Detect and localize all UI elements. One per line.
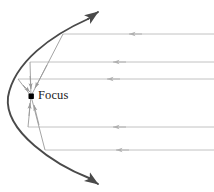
parabolic-reflector-diagram: Focus xyxy=(0,0,214,192)
focus-label: Focus xyxy=(38,88,68,102)
diagram-canvas xyxy=(0,0,214,192)
focus-point-dot xyxy=(29,94,34,99)
reflected-ray-2 xyxy=(30,62,31,96)
reflected-ray-3 xyxy=(18,79,31,96)
reflected-ray-4 xyxy=(28,96,31,127)
reflected-ray-5 xyxy=(31,96,45,150)
